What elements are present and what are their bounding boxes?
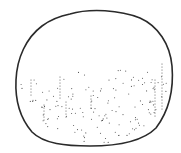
sphere-illustration <box>0 0 181 153</box>
sphere-outline <box>16 11 173 146</box>
stipple-dots <box>21 63 167 143</box>
